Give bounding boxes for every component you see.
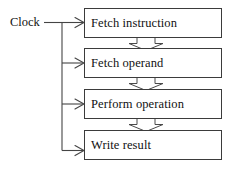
clock-bus [44, 23, 62, 151]
clock-arrow-fetch-operand [62, 58, 84, 68]
instruction-cycle-diagram: Clock Fetch instruction Fetch operand Pe… [0, 0, 235, 170]
clock-arrow-perform-operation [62, 99, 84, 109]
stage-label-write-result: Write result [91, 139, 151, 152]
stage-label-fetch-operand: Fetch operand [91, 57, 163, 70]
stage-box-fetch-operand[interactable]: Fetch operand [84, 48, 222, 78]
stage-box-perform-operation[interactable]: Perform operation [84, 89, 222, 119]
clock-arrow-fetch-instruction [62, 18, 84, 28]
stage-box-write-result[interactable]: Write result [84, 130, 222, 160]
stage-label-perform-operation: Perform operation [91, 98, 184, 111]
stage-label-fetch-instruction: Fetch instruction [91, 17, 177, 30]
clock-arrow-write-result [62, 146, 84, 156]
stage-box-fetch-instruction[interactable]: Fetch instruction [84, 8, 222, 38]
clock-label: Clock [10, 16, 40, 29]
